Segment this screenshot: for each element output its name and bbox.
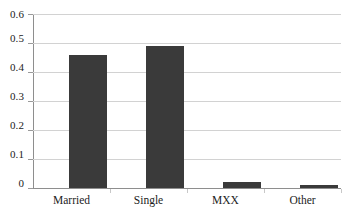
plot-area xyxy=(33,14,341,188)
x-axis-label-other: Other xyxy=(264,193,341,207)
y-axis-tick-label: 0.6 xyxy=(10,9,24,20)
x-axis-tick-mark xyxy=(341,189,342,193)
x-axis-label-single: Single xyxy=(110,193,187,207)
bar-single xyxy=(146,46,184,188)
bar-married xyxy=(69,55,107,188)
y-axis-tick-label: 0 xyxy=(18,178,24,189)
x-axis-label-mxx: MXX xyxy=(187,193,264,207)
y-axis-tick-label: 0.2 xyxy=(10,120,24,131)
x-axis-label-married: Married xyxy=(33,193,110,207)
y-axis-tick-label: 0.1 xyxy=(10,149,24,160)
bar-chart: 0 0.1 0.2 0.3 0.4 0.5 0.6 Married Single… xyxy=(0,0,349,220)
gridline xyxy=(33,14,341,15)
y-axis-tick-label: 0.5 xyxy=(10,33,24,44)
y-axis-tick-label: 0.3 xyxy=(10,91,24,102)
gridline xyxy=(33,43,341,44)
y-axis-tick-label: 0.4 xyxy=(10,62,24,73)
